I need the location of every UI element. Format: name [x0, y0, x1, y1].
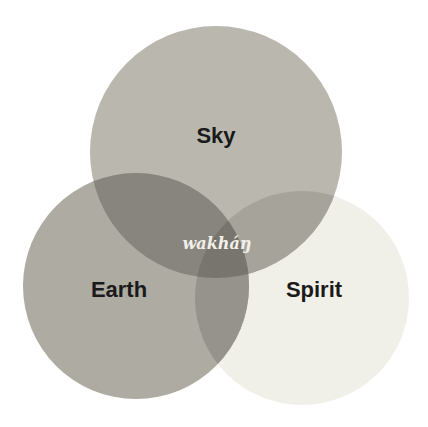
earth-label: Earth [91, 277, 147, 303]
venn-diagram [0, 0, 428, 427]
spirit-label: Spirit [286, 277, 342, 303]
sky-label: Sky [196, 123, 235, 149]
intersection-label: wakháŋ [183, 234, 252, 253]
